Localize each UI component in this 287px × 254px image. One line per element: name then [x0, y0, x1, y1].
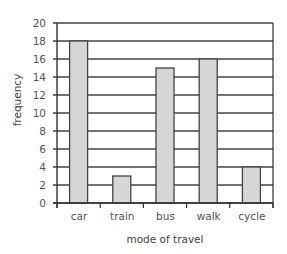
- bar-chart: 20181614121086420 cartrainbuswalkcycle f…: [0, 0, 287, 254]
- x-tick-label: train: [110, 210, 134, 222]
- y-axis-tick-labels: 20181614121086420: [33, 17, 47, 209]
- y-tick-label: 20: [33, 17, 46, 29]
- bar-car: [70, 41, 88, 203]
- y-tick-label: 14: [33, 71, 47, 83]
- bar-walk: [199, 59, 217, 203]
- y-tick-label: 8: [39, 125, 46, 137]
- y-tick-label: 0: [39, 197, 46, 209]
- x-tick-label: walk: [197, 210, 222, 222]
- x-tick-label: bus: [156, 210, 175, 222]
- x-axis-title: mode of travel: [126, 233, 203, 245]
- y-tick-label: 2: [39, 179, 46, 191]
- y-tick-label: 6: [39, 143, 46, 155]
- x-tick-label: car: [71, 210, 88, 222]
- x-axis-tick-labels: cartrainbuswalkcycle: [71, 210, 266, 222]
- y-tick-label: 18: [33, 35, 46, 47]
- bar-train: [113, 176, 131, 203]
- x-tick-label: cycle: [238, 210, 265, 222]
- y-axis-title: frequency: [11, 74, 23, 127]
- y-tick-label: 4: [39, 161, 46, 173]
- y-tick-label: 12: [33, 89, 46, 101]
- bar-cycle: [242, 167, 260, 203]
- y-tick-label: 10: [33, 107, 46, 119]
- y-tick-label: 16: [33, 53, 47, 65]
- bar-bus: [156, 68, 174, 203]
- bars: [70, 41, 261, 203]
